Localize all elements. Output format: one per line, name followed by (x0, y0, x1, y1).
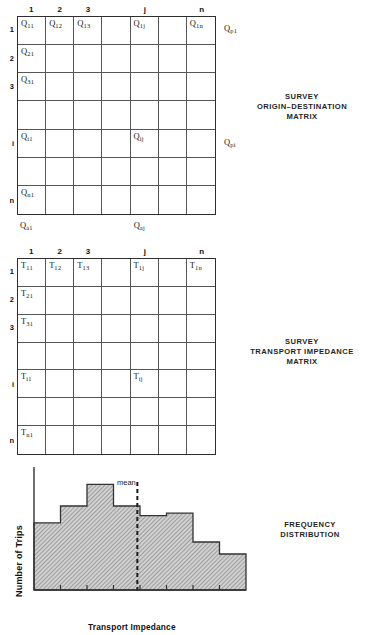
col-sum-subscript: aj (140, 224, 145, 231)
matrix-cell (46, 73, 74, 101)
matrix-caption-line: ORIGIN–DESTINATION (238, 102, 366, 112)
matrix-cell: Q11 (18, 17, 46, 45)
matrix-cell (46, 130, 74, 158)
matrix-cell (46, 45, 74, 73)
matrix-cell (131, 73, 159, 101)
matrix-cell (102, 130, 130, 158)
matrix-cell-symbol: Q (134, 18, 140, 28)
matrix-cell (102, 343, 130, 371)
matrix-cell-subscript: i1 (26, 375, 32, 382)
matrix-cell (131, 158, 159, 186)
matrix-cell (159, 370, 187, 398)
matrix-caption-line: TRANSPORT IMPEDANCE (238, 347, 366, 357)
matrix-cell (46, 426, 74, 454)
matrix-caption: SURVEYTRANSPORT IMPEDANCEMATRIX (238, 337, 366, 367)
matrix-column-header: j (131, 5, 159, 14)
matrix-cell (46, 186, 74, 214)
matrix-grid: T11T12T13T1jT1nT21T31Ti1TijTn1 (17, 258, 216, 455)
matrix-cell (102, 259, 130, 287)
matrix-cell (18, 158, 46, 186)
matrix-cell (46, 287, 74, 315)
matrix-cell-label: Qi1 (21, 131, 33, 141)
row-sum-subscript: pi (230, 141, 236, 148)
matrix-cell: T1j (131, 259, 159, 287)
matrix-cell (131, 315, 159, 343)
matrix-column-header: n (188, 5, 216, 14)
matrix-cell (74, 186, 102, 214)
matrix-cell (102, 186, 130, 214)
matrix-cell: Q31 (18, 73, 46, 101)
matrix-cell-subscript: 13 (82, 264, 89, 271)
matrix-cell-subscript: 13 (83, 22, 90, 29)
matrix-caption-line: SURVEY (238, 92, 366, 102)
matrix-cell-subscript: 1j (139, 264, 145, 271)
matrix-cell-label: Qij (134, 131, 144, 141)
histogram-caption-line: FREQUENCY (250, 520, 370, 530)
matrix-caption-line: MATRIX (238, 112, 366, 122)
matrix-cell-label: Q21 (21, 46, 34, 56)
matrix-cell-label: Q1j (134, 18, 146, 28)
matrix-cell (131, 101, 159, 129)
matrix-cell: Q1n (187, 17, 215, 45)
matrix-cell (74, 398, 102, 426)
matrix-cell-subscript: n1 (27, 191, 34, 198)
frequency-distribution-chart: Number of Trips Transport Impedance mean (0, 462, 250, 635)
matrix-cell (46, 315, 74, 343)
matrix-cell (187, 315, 215, 343)
matrix-cell (102, 398, 130, 426)
matrix-row-sum: Qpi (224, 137, 236, 147)
matrix-column-header: 2 (45, 247, 73, 256)
matrix-column-header: j (131, 247, 159, 256)
matrix-cell (131, 186, 159, 214)
matrix-cell (187, 130, 215, 158)
matrix-cell (74, 343, 102, 371)
matrix-column-header: 1 (17, 247, 45, 256)
matrix-row-sum: Qp1 (224, 23, 237, 33)
matrix-cell (102, 426, 130, 454)
matrix-cell (74, 101, 102, 129)
matrix-cell-label: Q11 (21, 18, 34, 28)
histogram-bars (34, 484, 246, 590)
matrix-cell-label: Q31 (21, 74, 34, 84)
col-sum-symbol: Q (134, 220, 140, 230)
matrix-cell (159, 101, 187, 129)
matrix-cell-subscript: 31 (26, 320, 33, 327)
matrix-cell-subscript: 21 (27, 50, 34, 57)
matrix-cell (159, 17, 187, 45)
matrix-cell (187, 287, 215, 315)
matrix-cell-subscript: 31 (27, 78, 34, 85)
matrix-cell: T21 (18, 287, 46, 315)
matrix-cell-subscript: n1 (26, 431, 33, 438)
matrix-column-sum: Qaj (134, 220, 145, 230)
matrix-caption: SURVEYORIGIN–DESTINATIONMATRIX (238, 92, 366, 122)
matrix-cell-label: T1n (190, 260, 202, 270)
matrix-cell-symbol: T (134, 371, 139, 381)
matrix-cell: Qn1 (18, 186, 46, 214)
matrix-cell-label: T12 (49, 260, 61, 270)
matrix-cell: T12 (46, 259, 74, 287)
matrix-cell-label: Qn1 (21, 187, 34, 197)
matrix-cell (159, 398, 187, 426)
matrix-cell (187, 158, 215, 186)
matrix-cell (131, 45, 159, 73)
matrix-cell (187, 45, 215, 73)
matrix-cell (74, 426, 102, 454)
matrix-cell (46, 343, 74, 371)
matrix-cell: Q13 (74, 17, 102, 45)
matrix-cell (102, 158, 130, 186)
matrix-cell (159, 315, 187, 343)
matrix-cell (74, 73, 102, 101)
matrix-column-header: 3 (74, 5, 102, 14)
matrix-cell-label: Ti1 (21, 371, 32, 381)
matrix-cell: Q1j (131, 17, 159, 45)
matrix-cell: Q12 (46, 17, 74, 45)
matrix-cell: Q21 (18, 45, 46, 73)
matrix-cell (74, 45, 102, 73)
matrix-cell (131, 287, 159, 315)
matrix-cell: Qi1 (18, 130, 46, 158)
matrix-cell-label: T1j (134, 260, 145, 270)
matrix-cell-subscript: ij (140, 135, 144, 142)
matrix-cell-subscript: 1n (196, 22, 203, 29)
matrix-cell: Ti1 (18, 370, 46, 398)
matrix-cell (102, 287, 130, 315)
